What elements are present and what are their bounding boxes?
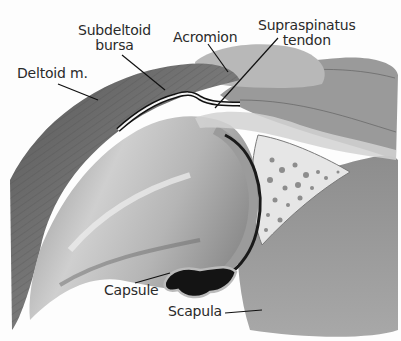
capsule-recess [165,267,236,297]
label-scapula: Scapula [168,304,222,319]
anatomy-illustration: Subdeltoid bursa Acromion Supraspinatus … [0,0,401,341]
label-subdeltoid-bursa: Subdeltoid bursa [78,23,151,53]
label-capsule: Capsule [104,283,159,298]
label-acromion: Acromion [173,30,237,45]
label-deltoid-muscle: Deltoid m. [17,66,88,81]
shoulder-joint-drawing [0,0,401,341]
label-supraspinatus-tendon: Supraspinatus tendon [258,18,356,48]
